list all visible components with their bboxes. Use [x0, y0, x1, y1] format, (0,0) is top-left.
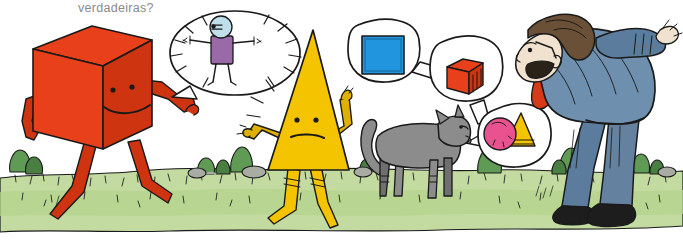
cone-eye-right	[313, 117, 318, 122]
stick-figure-shirt	[211, 36, 233, 64]
bubble-blue-square	[348, 19, 420, 82]
bubble-ball-cone	[478, 104, 551, 167]
red-cube-eye-right	[129, 84, 134, 89]
scene-svg: .ln{fill:none;stroke:#1a1a1a;stroke-line…	[0, 0, 683, 240]
mans-eye	[528, 48, 532, 52]
cone-eye-left	[294, 117, 299, 122]
shoe-front	[587, 204, 636, 227]
bubble-red-cube	[430, 36, 503, 101]
thought-blue-square	[362, 36, 404, 74]
page-caption: verdadeiras?	[78, 1, 154, 15]
cat-eye	[459, 125, 463, 129]
illustration-canvas: .ln{fill:none;stroke:#1a1a1a;stroke-line…	[0, 0, 683, 240]
red-cube-eye-left	[110, 87, 115, 92]
